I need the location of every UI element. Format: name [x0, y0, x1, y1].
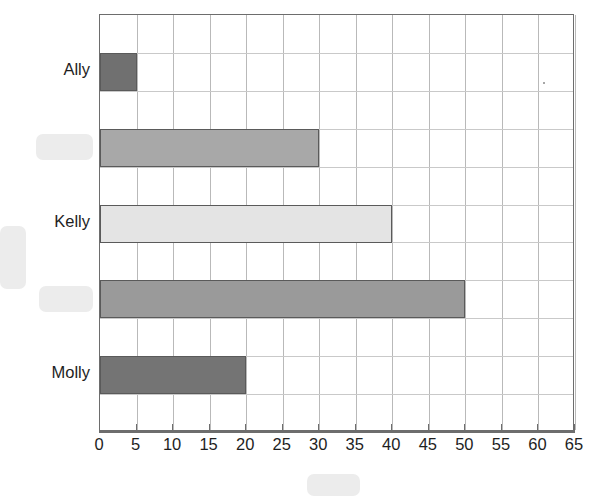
category-label-ally: Ally: [0, 60, 90, 79]
plot-area: [99, 14, 574, 431]
x-tick-label-15: 15: [189, 435, 229, 454]
redaction-y-axis-title: [0, 226, 26, 289]
x-tick-label-20: 20: [225, 435, 265, 454]
gridline-x-45: [429, 15, 430, 430]
x-tick-label-50: 50: [444, 435, 484, 454]
gridline-x-50: [465, 15, 466, 430]
gridline-x-55: [502, 15, 503, 430]
redaction-x-axis-title: [307, 474, 360, 496]
gridline-x-65: [575, 15, 576, 430]
x-tick-65: [574, 424, 575, 432]
x-tick-25: [282, 424, 283, 432]
gridline-y-4: [100, 167, 573, 168]
bar-chart: AllyKellyMolly 0510152025303540455055606…: [0, 0, 592, 500]
gridline-x-40: [392, 15, 393, 430]
category-label-molly: Molly: [0, 363, 90, 382]
gridline-y-1: [100, 53, 573, 54]
x-tick-label-10: 10: [152, 435, 192, 454]
x-tick-45: [428, 424, 429, 432]
redaction-category-label-2: [36, 134, 93, 160]
x-tick-50: [464, 424, 465, 432]
gridline-x-60: [538, 15, 539, 430]
gridline-y-8: [100, 318, 573, 319]
x-tick-label-25: 25: [262, 435, 302, 454]
x-tick-10: [172, 424, 173, 432]
chart-title: [99, 0, 574, 3]
x-tick-20: [245, 424, 246, 432]
redaction-category-label-4: [39, 286, 93, 312]
bar-row-2: [100, 129, 319, 167]
x-tick-55: [501, 424, 502, 432]
x-tick-35: [355, 424, 356, 432]
x-tick-60: [537, 424, 538, 432]
x-tick-label-30: 30: [298, 435, 338, 454]
scan-speck-dot: [543, 82, 545, 84]
x-tick-label-35: 35: [335, 435, 375, 454]
x-tick-label-60: 60: [517, 435, 557, 454]
x-tick-5: [136, 424, 137, 432]
bar-row-4: [100, 280, 465, 318]
x-tick-15: [209, 424, 210, 432]
bar-molly: [100, 356, 246, 394]
x-tick-0: [99, 424, 100, 432]
gridline-y-2: [100, 91, 573, 92]
x-tick-label-55: 55: [481, 435, 521, 454]
x-tick-label-45: 45: [408, 435, 448, 454]
x-axis-line: [99, 431, 575, 433]
x-tick-label-40: 40: [371, 435, 411, 454]
x-tick-40: [391, 424, 392, 432]
bar-kelly: [100, 205, 392, 243]
gridline-y-10: [100, 394, 573, 395]
x-tick-30: [318, 424, 319, 432]
bar-ally: [100, 53, 137, 91]
x-tick-label-5: 5: [116, 435, 156, 454]
x-tick-label-65: 65: [554, 435, 592, 454]
x-tick-label-0: 0: [79, 435, 119, 454]
